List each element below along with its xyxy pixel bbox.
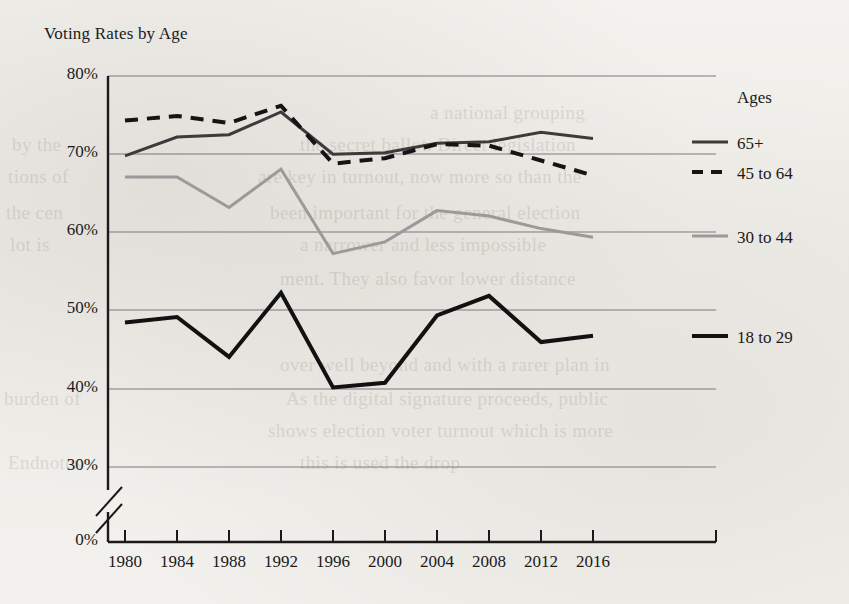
y-tick-label-30: 30% — [28, 455, 98, 475]
legend-title: Ages — [737, 88, 772, 108]
x-axis-ticks — [125, 530, 716, 542]
x-tick-label-2016: 2016 — [566, 552, 620, 572]
x-tick-label-1992: 1992 — [254, 552, 308, 572]
x-tick-label-1988: 1988 — [202, 552, 256, 572]
x-tick-label-1980: 1980 — [98, 552, 152, 572]
x-tick-label-1996: 1996 — [306, 552, 360, 572]
legend-item-30-to-44: 30 to 44 — [737, 228, 793, 248]
x-tick-label-2012: 2012 — [514, 552, 568, 572]
y-tick-label-50: 50% — [28, 298, 98, 318]
series-line-18-to-29 — [125, 293, 593, 388]
legend-swatches — [692, 142, 728, 336]
series-line-30-to-44 — [125, 169, 593, 254]
axis-lines — [108, 76, 716, 542]
legend-item-65-plus: 65+ — [737, 134, 764, 154]
y-tick-label-60: 60% — [28, 220, 98, 240]
chart-canvas — [0, 0, 849, 604]
voting-rates-chart: Voting Rates by Age — [0, 0, 849, 604]
y-tick-label-70: 70% — [28, 142, 98, 162]
series-line-45-to-64 — [125, 106, 593, 176]
y-tick-label-40: 40% — [28, 377, 98, 397]
x-tick-label-1984: 1984 — [150, 552, 204, 572]
x-tick-label-2008: 2008 — [462, 552, 516, 572]
y-tick-label-80: 80% — [28, 64, 98, 84]
x-tick-label-2000: 2000 — [358, 552, 412, 572]
legend-item-18-to-29: 18 to 29 — [737, 328, 793, 348]
data-series-group — [125, 106, 593, 388]
legend-item-45-to-64: 45 to 64 — [737, 164, 793, 184]
y-tick-label-0: 0% — [28, 530, 98, 550]
x-tick-label-2004: 2004 — [410, 552, 464, 572]
